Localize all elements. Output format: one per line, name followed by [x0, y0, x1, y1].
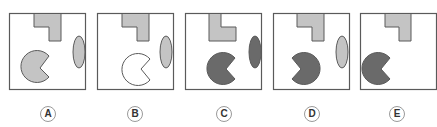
- option-label-d[interactable]: D: [304, 106, 320, 122]
- panel-a-figure: [9, 13, 86, 90]
- ellipse-icon: [336, 36, 348, 68]
- option-panel-c[interactable]: [185, 13, 262, 90]
- panel-b-figure: [97, 13, 174, 90]
- option-panel-a[interactable]: [9, 13, 86, 90]
- ellipse-icon: [160, 36, 172, 68]
- option-label-c[interactable]: C: [216, 106, 232, 122]
- panel-d-figure: [273, 13, 350, 90]
- panel-e-figure: [360, 13, 437, 90]
- option-label-a[interactable]: A: [40, 106, 56, 122]
- option-panel-e[interactable]: [360, 13, 437, 90]
- option-label-e[interactable]: E: [389, 106, 405, 122]
- option-label-b[interactable]: B: [127, 106, 143, 122]
- option-panel-b[interactable]: [97, 13, 174, 90]
- option-panel-d[interactable]: [273, 13, 350, 90]
- ellipse-icon: [73, 36, 85, 68]
- panel-c-figure: [185, 13, 262, 90]
- ellipse-icon: [249, 36, 261, 68]
